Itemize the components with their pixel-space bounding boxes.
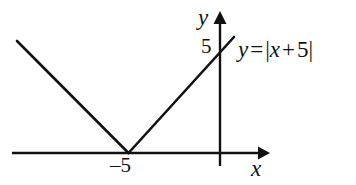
equation-bar-close: | <box>309 37 314 62</box>
curve-right-branch <box>129 37 235 153</box>
equation-plus: + <box>280 37 297 62</box>
y-tick-label-5: 5 <box>201 36 212 57</box>
y-axis <box>214 11 227 166</box>
x-axis <box>12 147 270 160</box>
x-tick-label-minus-5: –5 <box>110 155 131 176</box>
plot-canvas <box>0 0 356 185</box>
equation-label: y=|x+5| <box>238 38 313 61</box>
equation-equals: = <box>248 37 265 62</box>
graph-figure: y x 5 –5 y=|x+5| <box>0 0 356 185</box>
y-axis-arrowhead <box>214 11 227 24</box>
equation-constant: 5 <box>297 37 309 62</box>
y-axis-label: y <box>198 6 208 29</box>
equation-variable: x <box>270 37 280 62</box>
equation-lhs: y <box>238 37 248 62</box>
curve-left-branch <box>17 41 129 153</box>
x-axis-label: x <box>251 157 261 180</box>
